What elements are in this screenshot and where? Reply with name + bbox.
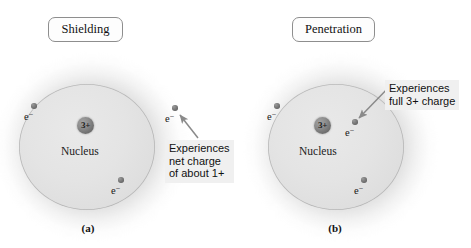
caption-b: (b) [313, 222, 357, 234]
title-penetration: Penetration [292, 17, 375, 42]
callout-arrow-b [0, 0, 471, 248]
callout-b-line-1: Experiences [389, 82, 455, 95]
title-penetration-label: Penetration [305, 22, 362, 37]
callout-b: Experiences full 3+ charge [385, 80, 459, 110]
callout-b-line-2: full 3+ charge [389, 95, 455, 108]
shielding-penetration-figure: 3+ Nucleus e− e− e− Experiences net char… [0, 0, 471, 248]
